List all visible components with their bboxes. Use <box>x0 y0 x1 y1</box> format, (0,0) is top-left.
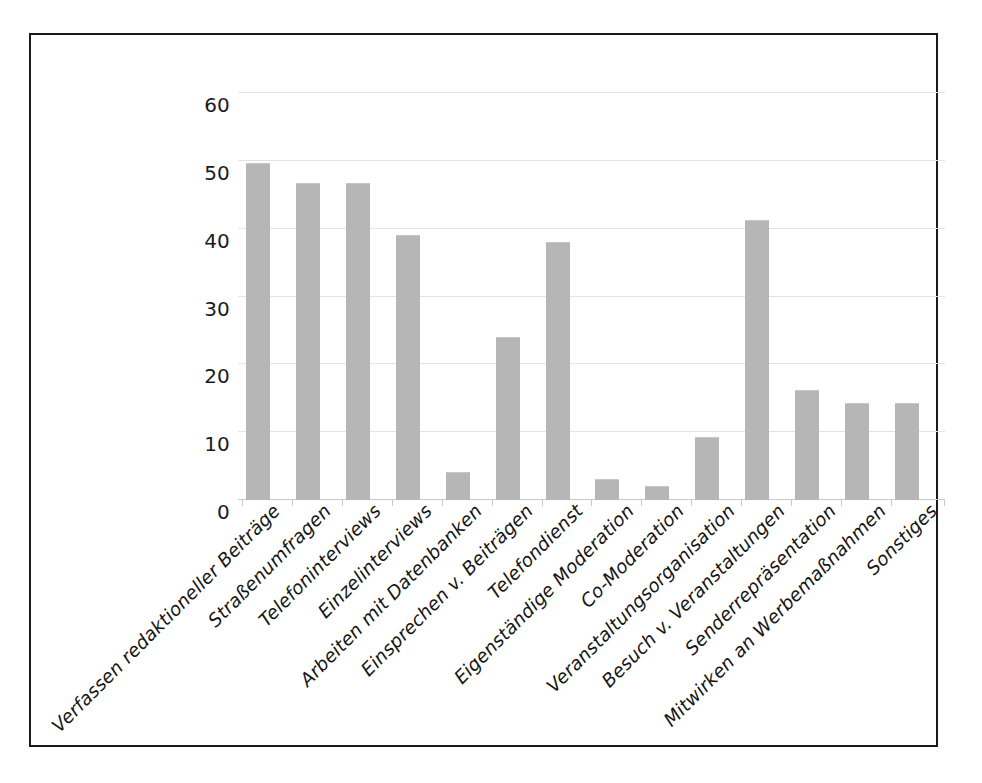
bar-slot <box>841 93 891 500</box>
bar-slot <box>342 93 392 500</box>
bar[interactable] <box>845 403 869 500</box>
bar-slot <box>641 93 691 500</box>
x-axis-category-labels: Verfassen redaktioneller BeiträgeStraßen… <box>238 500 945 740</box>
bar[interactable] <box>296 183 320 500</box>
plot-area: 0102030405060 <box>238 93 945 500</box>
bar-slot <box>242 93 292 500</box>
bar[interactable] <box>695 437 719 500</box>
page-top-margin <box>0 0 982 30</box>
bar[interactable] <box>745 220 769 500</box>
x-axis-label-0: Verfassen redaktioneller Beiträge <box>48 500 284 736</box>
bar-series <box>238 93 945 500</box>
bar-slot <box>791 93 841 500</box>
bar[interactable] <box>795 390 819 500</box>
bar-slot <box>741 93 791 500</box>
bar-slot <box>542 93 592 500</box>
bar[interactable] <box>645 486 669 500</box>
bar-slot <box>292 93 342 500</box>
bar[interactable] <box>396 235 420 500</box>
bar[interactable] <box>895 403 919 500</box>
bar-slot <box>891 93 941 500</box>
bar-slot <box>591 93 641 500</box>
bar[interactable] <box>496 337 520 500</box>
bar[interactable] <box>446 472 470 500</box>
bar[interactable] <box>595 479 619 500</box>
bar-slot <box>492 93 542 500</box>
bar[interactable] <box>246 163 270 500</box>
bar-slot <box>691 93 741 500</box>
bar[interactable] <box>546 242 570 500</box>
bar-slot <box>392 93 442 500</box>
bar-slot <box>442 93 492 500</box>
chart-figure-frame: 0102030405060 Verfassen redaktioneller B… <box>29 33 938 747</box>
bar[interactable] <box>346 183 370 500</box>
